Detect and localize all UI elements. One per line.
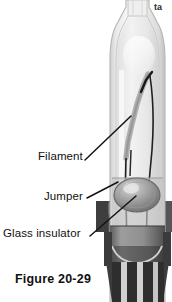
callout-label-jumper: Jumper xyxy=(44,190,83,202)
terminal-pins xyxy=(112,262,164,302)
halogen-bulb-illustration xyxy=(0,0,172,302)
callout-label-filament: Filament xyxy=(38,150,83,162)
glass-insulator-bead xyxy=(114,178,160,212)
figure-container: Filament Jumper Glass insulator Figure 2… xyxy=(0,0,172,302)
clipped-page-text-fragment: ta xyxy=(154,2,162,12)
figure-caption: Figure 20-29 xyxy=(15,272,91,286)
callout-label-glass-insulator: Glass insulator xyxy=(3,227,81,239)
